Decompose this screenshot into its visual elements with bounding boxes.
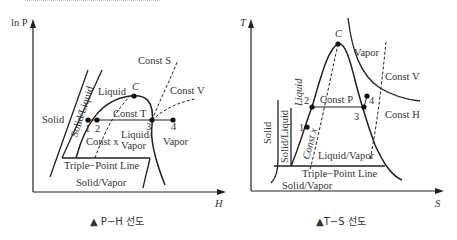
ts-label-const-v: Const V xyxy=(385,71,420,82)
ph-label-c: C xyxy=(132,81,140,92)
ts-x-axis-label: S xyxy=(435,198,441,209)
ph-point-c xyxy=(131,93,136,98)
ts-point-2 xyxy=(309,104,314,109)
ts-label-liquid: Liquid xyxy=(293,78,304,107)
ph-label-liquid: Liquid xyxy=(98,86,127,97)
ph-label-2: 2 xyxy=(95,123,100,134)
ph-label-liquid-vapor-2: Vapor xyxy=(121,140,147,151)
ph-label-const-v: Const V xyxy=(170,85,205,96)
ph-label-const-x: Const x xyxy=(86,136,119,147)
ph-caption: ▲ P−H 선도 xyxy=(90,216,144,227)
ts-label-const-h: Const H xyxy=(385,109,420,120)
ts-label-liquid-vapor: Liquid/Vapor xyxy=(318,150,374,161)
ph-y-arrow-icon xyxy=(30,19,36,28)
ts-label-solid-vapor: Solid/Vapor xyxy=(282,180,333,191)
ph-label-const-s: Const S xyxy=(138,55,171,66)
ts-caption: ▲T−S 선도 xyxy=(316,216,366,227)
ts-point-3 xyxy=(361,104,366,109)
ph-label-4: 4 xyxy=(171,121,177,132)
ts-label-2: 2 xyxy=(304,95,309,106)
ph-x-arrow-icon xyxy=(217,189,226,195)
ts-label-c: C xyxy=(335,28,343,39)
ph-x-axis-label: H xyxy=(214,198,224,209)
ts-label-4: 4 xyxy=(369,95,375,106)
ts-point-c xyxy=(335,41,340,46)
diagrams-canvas: ln P H Solid Solid/Liquid Liquid C Const… xyxy=(0,0,457,240)
ph-label-const-t: Const T xyxy=(113,108,147,119)
ph-label-liquid-vapor-1: Liquid/ xyxy=(121,129,152,140)
ts-label-solid-liquid: Solid/Liquid xyxy=(279,109,290,163)
ph-label-vapor: Vapor xyxy=(163,136,189,147)
ts-label-const-p: Const P xyxy=(320,94,353,105)
ph-label-solid: Solid xyxy=(42,114,65,125)
ts-label-triple-line: Triple−Point Line xyxy=(302,168,378,179)
ts-label-solid: Solid xyxy=(262,121,273,144)
ph-y-axis-label: ln P xyxy=(11,17,28,28)
ph-point-2 xyxy=(94,117,99,122)
ts-label-vapor: Vapor xyxy=(354,47,380,58)
ph-point-1 xyxy=(85,117,90,122)
ts-label-3: 3 xyxy=(354,111,359,122)
ph-const-v-line xyxy=(152,99,195,120)
ts-y-arrow-icon xyxy=(248,19,254,28)
ph-label-triple-line: Triple−Point Line xyxy=(64,160,140,171)
ph-label-solid-liquid: Solid/Liquid xyxy=(68,84,95,139)
ph-label-1: 1 xyxy=(85,123,90,134)
ts-label-1: 1 xyxy=(299,122,304,133)
ts-x-arrow-icon xyxy=(435,188,444,194)
ts-y-axis-label: T xyxy=(240,17,247,28)
ph-label-solid-vapor: Solid/Vapor xyxy=(76,177,127,188)
